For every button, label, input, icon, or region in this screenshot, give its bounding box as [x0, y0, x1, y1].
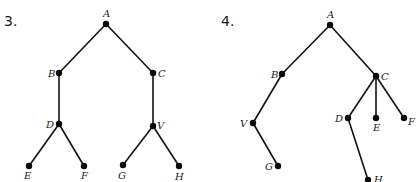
tree-diagrams: 3.ABCDVEFGH4.ABCVGDEFH [0, 0, 416, 182]
vertex-label-A: A [326, 9, 334, 20]
vertex-F [81, 163, 87, 169]
diagram-number: 4. [221, 13, 234, 29]
edge-A-B [59, 24, 106, 73]
edge-D-F [59, 124, 84, 166]
vertex-V [150, 123, 156, 129]
vertex-C [373, 73, 379, 79]
vertex-label-F: F [80, 170, 89, 181]
edge-D-H [348, 118, 368, 180]
edge-B-V [253, 74, 282, 123]
vertex-label-V: V [240, 118, 249, 129]
edge-A-C [106, 24, 153, 73]
vertex-E [373, 115, 379, 121]
vertex-A [103, 21, 109, 27]
vertex-label-F: F [407, 116, 416, 127]
vertex-H [365, 177, 371, 182]
vertex-A [327, 22, 333, 28]
vertex-G [275, 163, 281, 169]
vertex-G [120, 162, 126, 168]
edge-V-G [253, 123, 278, 166]
vertex-label-V: V [157, 120, 166, 131]
vertex-E [26, 163, 32, 169]
tree-4: 4.ABCVGDEFH [221, 9, 416, 182]
edge-D-E [29, 124, 59, 166]
edge-C-D [348, 76, 376, 118]
vertex-label-H: H [174, 171, 184, 182]
vertex-label-A: A [102, 8, 110, 19]
vertex-B [279, 71, 285, 77]
vertex-label-D: D [334, 113, 343, 124]
diagram-number: 3. [4, 13, 17, 29]
vertex-label-C: C [158, 68, 166, 79]
vertex-label-E: E [23, 170, 32, 181]
edge-C-F [376, 76, 404, 118]
vertex-label-E: E [372, 122, 381, 133]
vertex-label-G: G [118, 170, 126, 181]
edge-A-C [330, 25, 376, 76]
edge-A-B [282, 25, 330, 74]
vertex-D [56, 121, 62, 127]
vertex-label-H: H [373, 174, 383, 182]
vertex-label-B: B [270, 69, 278, 80]
edge-V-G [123, 126, 153, 165]
vertex-label-C: C [381, 71, 389, 82]
vertex-B [56, 70, 62, 76]
vertex-label-D: D [45, 119, 54, 130]
vertex-H [176, 163, 182, 169]
vertex-D [345, 115, 351, 121]
vertex-label-B: B [47, 68, 55, 79]
vertex-V [250, 120, 256, 126]
vertex-F [401, 115, 407, 121]
tree-3: 3.ABCDVEFGH [4, 8, 184, 182]
vertex-label-G: G [265, 161, 273, 172]
vertex-C [150, 70, 156, 76]
edge-V-H [153, 126, 179, 166]
